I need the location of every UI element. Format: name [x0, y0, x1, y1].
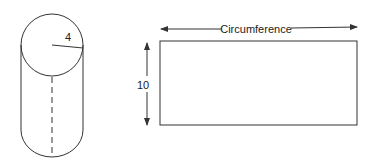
cylinder-net-diagram: 4 Circumference 10	[0, 0, 371, 164]
height-label: 10	[137, 79, 149, 91]
rectangle-shape	[160, 41, 357, 125]
circumference-arrow-right	[291, 27, 357, 28]
circumference-label: Circumference	[220, 23, 292, 35]
radius-label: 4	[65, 31, 71, 43]
unrolled-rectangle: Circumference 10	[137, 23, 357, 125]
radius-line	[52, 45, 83, 48]
cylinder: 4	[21, 14, 83, 157]
